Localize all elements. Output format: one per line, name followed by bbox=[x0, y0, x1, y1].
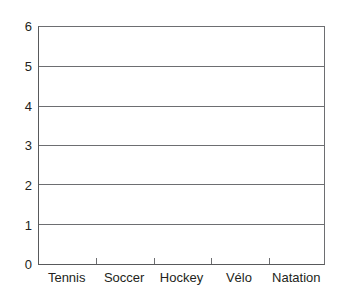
y-axis-tick-label-1: 1 bbox=[6, 219, 32, 232]
x-axis-tick-4 bbox=[269, 258, 270, 264]
x-axis-tick-2 bbox=[154, 258, 155, 264]
gridline-4 bbox=[39, 106, 324, 107]
chart-container: 6 5 4 3 2 1 0 Tennis Soccer Hockey Vélo … bbox=[0, 0, 340, 299]
x-axis-category-natation: Natation bbox=[268, 268, 325, 290]
y-axis-tick-label-4: 4 bbox=[6, 100, 32, 113]
gridline-2 bbox=[39, 184, 324, 185]
gridline-3 bbox=[39, 145, 324, 146]
x-axis-category-soccer: Soccer bbox=[95, 268, 152, 290]
x-axis-tick-3 bbox=[211, 258, 212, 264]
x-axis-category-velo: Vélo bbox=[210, 268, 267, 290]
gridline-1 bbox=[39, 224, 324, 225]
y-axis-tick-label-0: 0 bbox=[6, 258, 32, 271]
plot-area bbox=[38, 26, 325, 265]
y-axis-tick-label-2: 2 bbox=[6, 179, 32, 192]
y-axis-tick-label-3: 3 bbox=[6, 139, 32, 152]
gridline-5 bbox=[39, 66, 324, 67]
x-axis-category-hockey: Hockey bbox=[153, 268, 210, 290]
y-axis-tick-label-5: 5 bbox=[6, 60, 32, 73]
y-axis-tick-label-group: 6 5 4 3 2 1 0 bbox=[0, 0, 32, 299]
x-axis-category-tennis: Tennis bbox=[38, 268, 95, 290]
y-axis-tick-label-6: 6 bbox=[6, 20, 32, 33]
x-axis-category-label-group: Tennis Soccer Hockey Vélo Natation bbox=[38, 268, 325, 290]
x-axis-tick-1 bbox=[96, 258, 97, 264]
